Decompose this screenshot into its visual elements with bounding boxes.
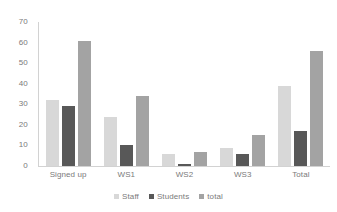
x-axis-category-labels: Signed upWS1WS2WS3Total: [39, 170, 330, 184]
y-axis-tick-0: 0: [23, 162, 28, 170]
legend-item[interactable]: total: [199, 192, 223, 201]
bar[interactable]: [310, 51, 323, 166]
legend-swatch-icon: [149, 194, 154, 199]
bar[interactable]: [294, 131, 307, 166]
bar[interactable]: [104, 117, 117, 166]
y-axis-tick-40: 40: [19, 80, 28, 88]
bar-group: [214, 22, 272, 166]
legend-label: Staff: [122, 192, 139, 201]
bar-group: [39, 22, 97, 166]
legend-swatch-icon: [199, 194, 204, 199]
bar[interactable]: [220, 148, 233, 167]
y-axis-tick-20: 20: [19, 121, 28, 129]
bar-group: [272, 22, 330, 166]
legend-label: total: [207, 192, 223, 201]
bar[interactable]: [178, 164, 191, 166]
bar[interactable]: [278, 86, 291, 166]
y-axis-tick-50: 50: [19, 59, 28, 67]
bar[interactable]: [194, 152, 207, 166]
x-axis-label: WS2: [155, 170, 213, 184]
legend-item[interactable]: Students: [149, 192, 189, 201]
legend-label: Students: [157, 192, 189, 201]
x-axis-line: [38, 166, 330, 167]
legend-swatch-icon: [114, 194, 119, 199]
legend-item[interactable]: Staff: [114, 192, 139, 201]
x-axis-label: WS3: [214, 170, 272, 184]
bar-group: [155, 22, 213, 166]
chart-legend: StaffStudentstotal: [0, 192, 337, 201]
bar[interactable]: [78, 41, 91, 166]
bar[interactable]: [46, 100, 59, 166]
y-axis-tick-labels: 010203040506070: [0, 22, 34, 166]
y-axis-tick-60: 60: [19, 39, 28, 47]
bar[interactable]: [236, 154, 249, 166]
y-axis-tick-10: 10: [19, 141, 28, 149]
bar-groups: [39, 22, 330, 166]
bar[interactable]: [136, 96, 149, 166]
y-axis-tick-30: 30: [19, 100, 28, 108]
bar[interactable]: [120, 145, 133, 166]
x-axis-label: Total: [272, 170, 330, 184]
x-axis-label: WS1: [97, 170, 155, 184]
y-axis-tick-70: 70: [19, 18, 28, 26]
bar-group: [97, 22, 155, 166]
bar[interactable]: [252, 135, 265, 166]
bar[interactable]: [62, 106, 75, 166]
bar[interactable]: [162, 154, 175, 166]
bar-chart: 010203040506070 Signed upWS1WS2WS3Total …: [0, 0, 337, 212]
x-axis-label: Signed up: [39, 170, 97, 184]
